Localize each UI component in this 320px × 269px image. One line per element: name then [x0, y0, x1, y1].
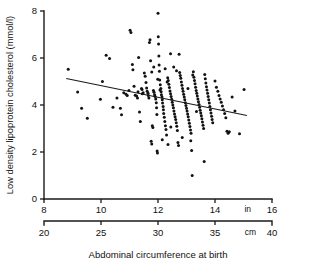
- data-point: [192, 76, 195, 79]
- data-point: [176, 141, 179, 144]
- data-point: [187, 119, 190, 122]
- data-point: [120, 113, 123, 116]
- data-point: [243, 88, 246, 91]
- data-point: [231, 96, 234, 99]
- data-point: [195, 92, 198, 95]
- data-point: [165, 134, 168, 137]
- data-point: [101, 80, 104, 83]
- data-point: [238, 132, 241, 135]
- data-point: [157, 35, 160, 38]
- data-point: [167, 83, 170, 86]
- data-point: [189, 139, 192, 142]
- data-point: [210, 115, 213, 118]
- data-point: [169, 126, 172, 129]
- data-point: [158, 70, 161, 73]
- data-point: [203, 160, 206, 163]
- data-point: [162, 108, 165, 111]
- data-point: [181, 87, 184, 90]
- x-axis-cm-tick-label: 20: [39, 227, 50, 238]
- data-point: [148, 41, 151, 44]
- x-axis-inches-unit-label: in: [244, 204, 251, 214]
- data-point: [201, 120, 204, 123]
- data-point: [129, 31, 132, 34]
- data-point: [155, 113, 158, 116]
- data-point: [172, 65, 175, 68]
- data-point: [190, 132, 193, 135]
- data-point: [221, 104, 224, 107]
- y-axis-tick-label: 2: [32, 146, 37, 157]
- x-axis-cm-unit-label: cm: [245, 227, 256, 237]
- data-point: [137, 56, 140, 59]
- data-point: [147, 96, 150, 99]
- y-axis-tick-label: 6: [32, 52, 37, 63]
- data-point: [196, 95, 199, 98]
- data-point: [204, 81, 207, 84]
- x-axis-inches: 810121416in: [41, 199, 277, 215]
- data-point: [188, 125, 191, 128]
- data-point: [126, 94, 129, 97]
- x-axis-cm-tick-label: 30: [153, 227, 164, 238]
- data-point: [194, 86, 197, 89]
- data-point: [186, 87, 189, 90]
- data-point: [176, 129, 179, 132]
- data-point: [169, 52, 172, 55]
- data-point: [166, 76, 169, 79]
- data-point: [157, 55, 160, 58]
- data-point: [233, 110, 236, 113]
- x-axis-inches-tick-label: 8: [41, 204, 46, 215]
- x-axis-inches-tick-label: 16: [267, 204, 278, 215]
- data-point: [186, 112, 189, 115]
- data-point: [195, 110, 198, 113]
- data-point: [150, 71, 153, 74]
- data-point: [175, 121, 178, 124]
- data-point: [174, 115, 177, 118]
- data-point: [175, 125, 178, 128]
- data-point: [179, 77, 182, 80]
- data-point: [202, 127, 205, 130]
- data-point: [163, 120, 166, 123]
- data-point: [157, 12, 160, 15]
- data-point: [111, 106, 114, 109]
- data-point: [223, 112, 226, 115]
- regression-line: [66, 78, 247, 115]
- data-point: [131, 63, 134, 66]
- data-point: [150, 143, 153, 146]
- y-axis: 02468: [32, 5, 44, 204]
- data-point: [158, 64, 161, 67]
- data-points: [67, 12, 246, 177]
- data-point: [108, 57, 111, 60]
- data-point: [131, 68, 134, 71]
- data-point: [224, 116, 227, 119]
- data-point: [145, 81, 148, 84]
- x-axis-inches-tick-label: 12: [153, 204, 164, 215]
- data-point: [183, 96, 186, 99]
- x-axis-cm-tick-label: 25: [96, 227, 107, 238]
- data-point: [149, 38, 152, 41]
- data-point: [105, 54, 108, 57]
- data-point: [179, 74, 182, 77]
- data-point: [200, 114, 203, 117]
- data-point: [162, 105, 165, 108]
- data-point: [143, 72, 146, 75]
- data-point: [171, 101, 174, 104]
- data-point: [164, 67, 167, 70]
- data-point: [215, 86, 218, 89]
- data-point: [177, 144, 180, 147]
- data-point: [188, 122, 191, 125]
- data-point: [99, 98, 102, 101]
- data-point: [154, 97, 157, 100]
- data-point: [180, 80, 183, 83]
- data-point: [208, 102, 211, 105]
- data-point: [163, 116, 166, 119]
- data-point: [172, 106, 175, 109]
- data-point: [168, 89, 171, 92]
- data-point: [193, 79, 196, 82]
- data-point: [86, 117, 89, 120]
- data-point: [217, 94, 220, 97]
- data-point: [207, 98, 210, 101]
- data-point: [161, 138, 164, 141]
- data-point: [199, 111, 202, 114]
- data-point: [157, 42, 160, 45]
- data-point: [195, 89, 198, 92]
- data-point: [166, 143, 169, 146]
